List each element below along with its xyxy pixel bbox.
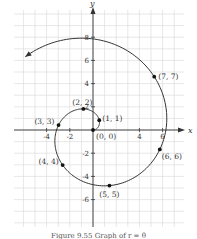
x-axis-arrow-icon [178,128,185,133]
data-point [158,148,162,152]
y-tick-label: -2 [82,150,89,158]
y-axis-label: y [89,0,95,8]
y-tick-label: 4 [85,80,90,88]
point-label: (6, 6) [162,152,182,161]
data-point [91,128,95,132]
data-point [81,107,85,111]
data-point [97,118,101,122]
y-tick-label: 8 [85,34,89,42]
point-label: (2, 2) [72,98,92,107]
spiral-chart: x y -4-2468642-2-4-6 (0, 0)(1, 1)(2, 2)(… [0,0,197,239]
x-tick-label: -4 [43,133,50,141]
point-label: (1, 1) [102,114,122,123]
point-label: (7, 7) [158,72,178,81]
figure-caption: Figure 9.55 Graph of r = θ [0,232,197,239]
y-tick-label: 6 [85,57,90,65]
x-tick-label: -2 [66,133,73,141]
x-axis-label: x [188,126,193,135]
point-label: (0, 0) [96,132,116,141]
spiral-arrow-icon [25,51,31,57]
point-label: (4, 4) [38,157,58,166]
data-point [57,123,61,127]
y-tick-label: -6 [82,196,89,204]
y-tick-label: -4 [82,173,89,181]
x-tick-label: 4 [137,133,142,141]
point-label: (5, 5) [99,190,119,199]
data-point [152,75,156,79]
point-label: (3, 3) [34,117,54,126]
data-point [108,184,112,188]
data-point [61,163,65,167]
y-axis-arrow-icon [91,7,96,14]
